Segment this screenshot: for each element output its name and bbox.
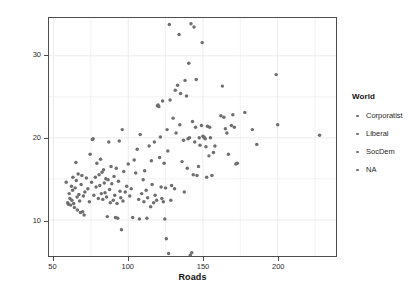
- scatter-point: [230, 124, 233, 127]
- scatter-point: [97, 197, 100, 200]
- scatter-point: [153, 140, 156, 143]
- scatter-point: [122, 170, 125, 173]
- scatter-point: [98, 184, 101, 187]
- scatter-point: [170, 184, 173, 187]
- scatter-point: [76, 172, 79, 175]
- scatter-point: [192, 173, 195, 176]
- scatter-point: [162, 162, 165, 165]
- scatter-point: [113, 194, 116, 197]
- scatter-point: [120, 228, 123, 231]
- scatter-point: [107, 140, 110, 143]
- scatter-point: [183, 190, 186, 193]
- x-axis-title: Roads: [48, 272, 337, 282]
- scatter-point: [185, 94, 188, 97]
- scatter-point: [174, 131, 177, 134]
- scatter-point: [121, 128, 124, 131]
- plot-canvas: [49, 18, 336, 256]
- legend-item: SocDem: [352, 144, 416, 160]
- scatter-point: [70, 198, 73, 201]
- legend-marker-icon: [352, 165, 363, 176]
- scatter-point: [102, 168, 105, 171]
- scatter-point: [82, 213, 85, 216]
- scatter-point: [138, 133, 141, 136]
- legend-item-label: NA: [366, 166, 376, 174]
- scatter-point: [318, 134, 321, 137]
- scatter-point: [129, 187, 132, 190]
- legend-dot: [356, 115, 359, 118]
- legend: World CorporatistLiberalSocDemNA: [352, 92, 416, 180]
- scatter-point: [274, 73, 277, 76]
- scatter-point: [118, 189, 121, 192]
- scatter-point: [140, 192, 143, 195]
- scatter-point: [71, 175, 74, 178]
- scatter-point: [106, 215, 109, 218]
- scatter-point: [210, 174, 213, 177]
- scatter-point: [233, 125, 236, 128]
- scatter-point: [150, 159, 153, 162]
- x-tick-label: 150: [183, 263, 223, 271]
- scatter-point: [79, 183, 82, 186]
- legend-title: World: [352, 92, 416, 101]
- scatter-point: [188, 136, 191, 139]
- x-tick-mark: [53, 257, 54, 261]
- scatter-point: [212, 151, 215, 154]
- scatter-point: [173, 187, 176, 190]
- scatter-point: [105, 195, 108, 198]
- scatter-point: [159, 185, 162, 188]
- scatter-point: [74, 161, 77, 164]
- scatter-point: [116, 217, 119, 220]
- scatter-point: [76, 208, 79, 211]
- scatter-point: [171, 116, 174, 119]
- gridlines: [49, 18, 336, 256]
- scatter-point: [194, 125, 197, 128]
- scatter-point: [100, 192, 103, 195]
- scatter-point: [255, 143, 258, 146]
- y-tick-label: 30: [18, 51, 41, 59]
- scatter-point: [150, 183, 153, 186]
- scatter-point: [174, 88, 177, 91]
- scatter-point: [103, 181, 106, 184]
- scatter-point: [165, 128, 168, 131]
- scatter-point: [94, 175, 97, 178]
- scatter-point: [213, 144, 216, 147]
- legend-items: CorporatistLiberalSocDemNA: [352, 108, 416, 178]
- scatter-point: [91, 137, 94, 140]
- scatter-point: [132, 158, 135, 161]
- scatter-point: [99, 157, 102, 160]
- legend-marker-icon: [352, 129, 363, 140]
- scatter-point: [101, 198, 104, 201]
- scatter-point: [81, 210, 84, 213]
- scatter-point: [103, 191, 106, 194]
- scatter-point: [227, 152, 230, 155]
- scatter-point: [192, 25, 195, 28]
- scatter-plot-figure: Donors 102030 50100150200 Roads World Co…: [0, 0, 417, 293]
- scatter-point: [121, 199, 124, 202]
- scatter-point: [187, 61, 190, 64]
- scatter-point: [85, 176, 88, 179]
- scatter-point: [222, 116, 225, 119]
- legend-marker-icon: [352, 147, 363, 158]
- scatter-point: [152, 201, 155, 204]
- scatter-point: [221, 84, 224, 87]
- scatter-point: [138, 217, 141, 220]
- scatter-point: [189, 22, 192, 25]
- legend-dot: [356, 169, 359, 172]
- scatter-point: [159, 135, 162, 138]
- scatter-point: [209, 136, 212, 139]
- scatter-point: [112, 198, 115, 201]
- scatter-point: [224, 127, 227, 130]
- scatter-point: [153, 194, 156, 197]
- legend-item-label: SocDem: [366, 148, 395, 156]
- scatter-point: [200, 41, 203, 44]
- scatter-point: [203, 137, 206, 140]
- scatter-point: [71, 189, 74, 192]
- scatter-point: [88, 152, 91, 155]
- scatter-point: [82, 194, 85, 197]
- scatter-point: [208, 125, 211, 128]
- scatter-point: [141, 178, 144, 181]
- scatter-point: [197, 136, 200, 139]
- scatter-point: [160, 197, 163, 200]
- scatter-point: [204, 145, 207, 148]
- scatter-point: [219, 114, 222, 117]
- scatter-point: [165, 237, 168, 240]
